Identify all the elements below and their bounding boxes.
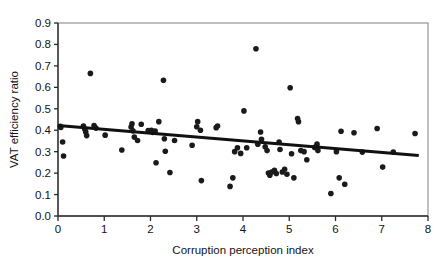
y-tick-label: 0.7 <box>35 60 51 72</box>
data-point <box>198 127 204 133</box>
data-point <box>342 181 348 187</box>
x-tick-label: 7 <box>379 223 385 235</box>
y-tick-label: 0.0 <box>35 210 51 222</box>
y-tick-label: 0.1 <box>35 189 51 201</box>
data-point <box>412 131 418 137</box>
data-point <box>238 151 244 157</box>
data-point <box>135 138 141 144</box>
data-point <box>119 147 125 153</box>
data-point <box>230 175 236 181</box>
x-tick-label: 2 <box>147 223 153 235</box>
data-point <box>336 175 342 181</box>
y-tick-label: 0.6 <box>35 81 51 93</box>
data-point <box>215 123 221 129</box>
x-tick-label: 8 <box>425 223 431 235</box>
data-point <box>304 157 310 163</box>
data-point <box>301 149 307 155</box>
y-tick-label: 0.4 <box>35 124 52 136</box>
data-point <box>351 130 357 136</box>
y-tick-label: 0.2 <box>35 167 51 179</box>
data-point <box>291 175 297 181</box>
data-point <box>282 166 288 172</box>
data-point <box>277 147 283 153</box>
data-point <box>189 142 195 148</box>
x-tick-label: 1 <box>101 223 107 235</box>
data-point <box>296 119 302 125</box>
data-point <box>60 139 66 145</box>
data-point <box>338 128 344 134</box>
data-point <box>258 129 264 135</box>
data-point <box>284 171 290 177</box>
y-tick-label: 0.8 <box>35 38 51 50</box>
data-point <box>88 71 94 77</box>
data-point <box>84 133 90 139</box>
scatter-plot: 0.00.10.20.30.40.50.60.70.80.9012345678C… <box>0 0 446 270</box>
data-point <box>129 121 135 127</box>
data-point <box>163 148 169 154</box>
data-point <box>161 77 167 83</box>
data-point <box>287 85 293 91</box>
data-point <box>274 171 280 177</box>
data-point <box>264 148 270 154</box>
data-point <box>380 164 386 170</box>
y-axis-title: VAT efficiency ratio <box>8 71 20 168</box>
data-point <box>162 136 168 142</box>
x-tick-label: 3 <box>194 223 200 235</box>
y-tick-label: 0.5 <box>35 103 51 115</box>
chart-figure: 0.00.10.20.30.40.50.60.70.80.9012345678C… <box>0 0 446 270</box>
data-point <box>235 145 241 151</box>
x-tick-label: 5 <box>286 223 292 235</box>
data-point <box>328 191 334 197</box>
data-point <box>167 170 173 176</box>
data-point <box>102 132 108 138</box>
data-point <box>199 178 205 184</box>
data-point <box>138 121 144 127</box>
data-point <box>195 119 201 125</box>
data-point <box>241 108 247 114</box>
x-tick-label: 0 <box>55 223 61 235</box>
data-point <box>172 138 178 144</box>
data-point <box>156 119 162 125</box>
data-point <box>61 153 67 159</box>
x-tick-label: 4 <box>240 223 247 235</box>
x-axis-title: Corruption perception index <box>172 244 314 256</box>
plot-frame <box>58 23 428 216</box>
y-tick-label: 0.3 <box>35 146 51 158</box>
data-point <box>374 126 380 132</box>
data-point <box>153 160 159 166</box>
data-point <box>289 151 295 157</box>
x-tick-label: 6 <box>332 223 338 235</box>
data-point <box>227 184 233 190</box>
data-point <box>244 145 250 151</box>
data-point <box>253 46 259 52</box>
y-tick-label: 0.9 <box>35 17 51 29</box>
